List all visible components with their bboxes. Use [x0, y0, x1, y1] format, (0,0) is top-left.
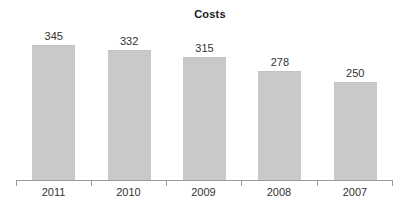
- bar-rect[interactable]: [32, 45, 75, 180]
- category-label-4: 2007: [317, 186, 393, 198]
- bar-rect[interactable]: [334, 82, 377, 180]
- bar-rect[interactable]: [108, 50, 151, 180]
- bar-value-label: 332: [120, 35, 138, 47]
- plot-area: 345 332 315 278 250 2011 2010 2009 200: [0, 0, 420, 221]
- category-label-2: 2009: [166, 186, 241, 198]
- bar-group: 250: [334, 82, 377, 180]
- bar-rect[interactable]: [183, 57, 226, 180]
- bar-rect[interactable]: [258, 71, 301, 180]
- bar-group: 278: [258, 71, 301, 180]
- category-label-0: 2011: [16, 186, 91, 198]
- bar-chart: Costs 345 332 315 278 250 2011: [0, 0, 420, 221]
- bar-value-label: 250: [346, 67, 364, 79]
- x-axis-line: [16, 180, 393, 181]
- category-label-1: 2010: [91, 186, 166, 198]
- category-label-3: 2008: [241, 186, 317, 198]
- bar-value-label: 315: [195, 42, 213, 54]
- bar-value-label: 345: [45, 30, 63, 42]
- bar-group: 332: [108, 50, 151, 180]
- bar-value-label: 278: [271, 56, 289, 68]
- bar-group: 345: [32, 45, 75, 180]
- bar-group: 315: [183, 57, 226, 180]
